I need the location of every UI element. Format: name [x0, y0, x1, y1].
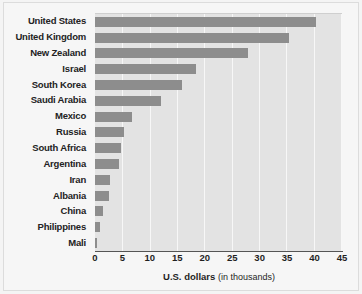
- bar: [95, 48, 248, 58]
- category-label: United States: [6, 13, 90, 29]
- x-axis-tick-label: 30: [254, 253, 265, 263]
- bar-row: [95, 204, 341, 220]
- x-axis-tick-label: 40: [309, 253, 320, 263]
- x-axis-tick-label: 20: [199, 253, 210, 263]
- bar-series: [95, 14, 341, 251]
- x-axis-tick-label: 5: [120, 253, 125, 263]
- bar: [95, 127, 124, 137]
- bar-row: [95, 30, 341, 46]
- bar-row: [95, 125, 341, 141]
- category-axis-labels: United States United Kingdom New Zealand…: [6, 13, 90, 251]
- category-label: New Zealand: [6, 45, 90, 61]
- category-label: Philippines: [6, 219, 90, 235]
- bar: [95, 64, 196, 74]
- bar-row: [95, 219, 341, 235]
- category-label: United Kingdom: [6, 29, 90, 45]
- bar: [95, 143, 121, 153]
- x-axis-tick-label: 25: [227, 253, 238, 263]
- bar-row: [95, 188, 341, 204]
- bar-row: [95, 14, 341, 30]
- x-axis-tick-label: 45: [337, 253, 348, 263]
- bar: [95, 238, 97, 248]
- bar-row: [95, 61, 341, 77]
- bar-row: [95, 172, 341, 188]
- bar: [95, 222, 100, 232]
- x-axis-tick-label: 0: [92, 253, 97, 263]
- bar: [95, 33, 289, 43]
- bar: [95, 80, 182, 90]
- bar: [95, 175, 110, 185]
- bar-row: [95, 77, 341, 93]
- category-label: Mali: [6, 235, 90, 251]
- x-axis-tick-label: 35: [282, 253, 293, 263]
- x-axis-tick-labels: 051015202530354045: [95, 253, 342, 267]
- x-axis-title: U.S. dollars (in thousands): [95, 272, 343, 282]
- category-label: Saudi Arabia: [6, 92, 90, 108]
- bar: [95, 17, 316, 27]
- x-axis-title-suffix: (in thousands): [218, 272, 275, 282]
- x-axis-tick-label: 15: [172, 253, 183, 263]
- bar-row: [95, 140, 341, 156]
- bar: [95, 191, 109, 201]
- bar-row: [95, 109, 341, 125]
- plot-area: [95, 13, 342, 251]
- bar: [95, 206, 103, 216]
- bar-row: [95, 156, 341, 172]
- x-axis-title-main: U.S. dollars: [163, 271, 215, 282]
- gridline: [341, 14, 342, 251]
- category-label: South Africa: [6, 140, 90, 156]
- bar-row: [95, 235, 341, 251]
- category-label: China: [6, 203, 90, 219]
- category-label: Albania: [6, 187, 90, 203]
- category-label: Argentina: [6, 156, 90, 172]
- bar: [95, 159, 119, 169]
- bar-row: [95, 46, 341, 62]
- category-label: Russia: [6, 124, 90, 140]
- chart-inner: United States United Kingdom New Zealand…: [0, 0, 362, 294]
- category-label: Mexico: [6, 108, 90, 124]
- bar: [95, 96, 161, 106]
- bar-chart-figure: United States United Kingdom New Zealand…: [0, 0, 362, 294]
- bar-row: [95, 93, 341, 109]
- bar: [95, 112, 132, 122]
- x-axis-tick-label: 10: [145, 253, 156, 263]
- category-label: Israel: [6, 61, 90, 77]
- x-axis-line: [95, 251, 343, 252]
- category-label: Iran: [6, 172, 90, 188]
- category-label: South Korea: [6, 76, 90, 92]
